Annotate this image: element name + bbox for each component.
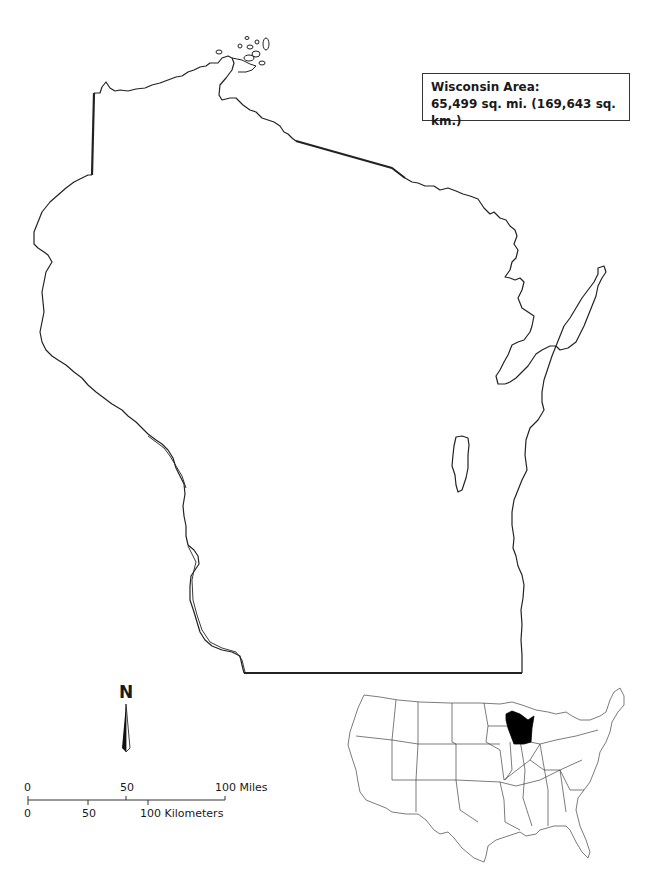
scale-miles-100: 100 Miles (215, 782, 268, 794)
area-legend-value: 65,499 sq. mi. (169,643 sq. km.) (431, 96, 621, 130)
scale-km-0: 0 (24, 808, 31, 820)
north-arrow-icon (122, 704, 130, 752)
area-legend-title: Wisconsin Area: (431, 79, 621, 96)
scale-miles-50: 50 (120, 782, 134, 794)
scale-km-50: 50 (82, 808, 96, 820)
north-label: N (115, 683, 137, 701)
scale-km-100: 100 Kilometers (140, 808, 223, 820)
wisconsin-outline (34, 56, 606, 673)
wisconsin-map (0, 0, 658, 888)
area-legend-box: Wisconsin Area: 65,499 sq. mi. (169,643 … (422, 73, 630, 121)
scale-bar: 0 50 100 Miles 0 50 100 Kilometers (0, 780, 300, 820)
north-arrow: N (115, 683, 137, 701)
scale-miles-0: 0 (24, 782, 31, 794)
us-locator-map (348, 688, 624, 862)
